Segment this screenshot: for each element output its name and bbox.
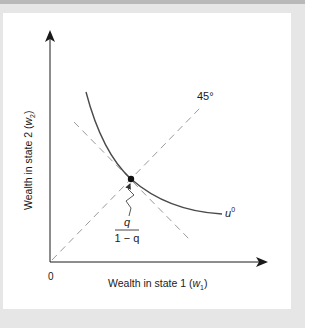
indifference-curve-u0 [86, 92, 222, 214]
state-preference-diagram: 45° u0 q 1 − q 0 Wealth in state 1 (w1) … [0, 0, 317, 328]
slope-numerator: q [124, 216, 131, 228]
slope-denominator: 1 − q [115, 232, 140, 244]
squiggle-arrow [126, 184, 134, 216]
x-axis-label: Wealth in state 1 (w1) [108, 277, 207, 291]
origin-label: 0 [48, 271, 54, 282]
certainty-line-label: 45° [197, 90, 214, 102]
tangency-point [128, 176, 134, 182]
indifference-curve-label: u0 [225, 206, 235, 219]
y-axis-label: Wealth in state 2 (w2) [22, 111, 36, 210]
